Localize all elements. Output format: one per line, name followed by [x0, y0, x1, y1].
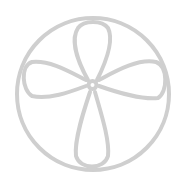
outer-ring	[17, 18, 169, 170]
bottom-lobe	[76, 92, 109, 167]
left-lobe	[24, 62, 86, 97]
icon-canvas	[0, 0, 187, 190]
center-loop	[89, 81, 97, 89]
top-lobe	[75, 22, 110, 80]
quatrefoil-in-circle-icon	[0, 0, 187, 190]
right-lobe	[99, 61, 165, 98]
